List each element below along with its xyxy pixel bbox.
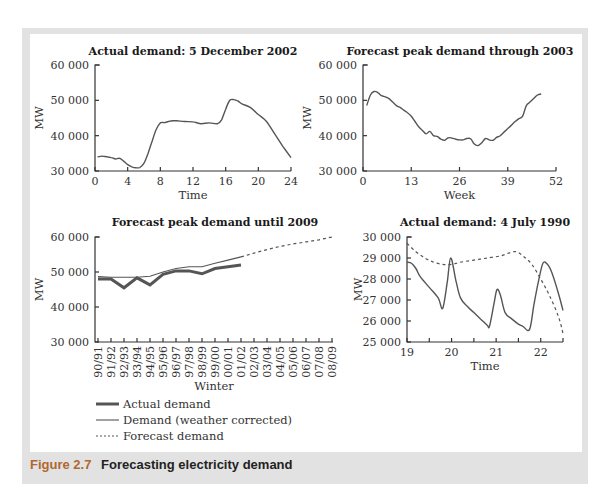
y-tick-label: 60 000 (51, 59, 90, 72)
x-tick-label: 16 (219, 175, 233, 188)
x-tick-label: 22 (534, 346, 548, 359)
y-tick-label: 40 000 (51, 301, 90, 314)
x-tick-label: 98/99 (196, 346, 209, 378)
y-tick-label: 30 000 (363, 231, 402, 244)
series-dashed (241, 237, 332, 257)
x-tick-label: 90/91 (92, 346, 105, 378)
axis-lines (95, 65, 291, 171)
axis-lines (95, 237, 333, 342)
x-tick-label: 52 (549, 175, 563, 188)
y-tick-label: 50 000 (319, 94, 358, 107)
figure-caption-text: Forecasting electricity demand (101, 457, 292, 472)
y-tick-label: 40 000 (319, 130, 358, 143)
y-tick-label: 50 000 (51, 94, 90, 107)
x-axis-label: Time (178, 188, 207, 202)
x-tick-label: 96/97 (170, 346, 183, 378)
legend-label: Actual demand (122, 397, 211, 411)
x-axis-label: Week (444, 188, 476, 202)
y-tick-label: 60 000 (51, 231, 90, 244)
x-tick-label: 0 (360, 175, 367, 188)
x-tick-label: 24 (284, 175, 298, 188)
legend: Actual demandDemand (weather corrected)F… (96, 397, 292, 443)
y-tick-label: 27 000 (363, 294, 402, 307)
series-line (367, 91, 542, 145)
x-tick-label: 19 (400, 346, 414, 359)
series-thick-solid (98, 265, 241, 288)
x-tick-label: 92/93 (118, 346, 131, 378)
y-tick-label: 40 000 (51, 130, 90, 143)
legend-label: Demand (weather corrected) (123, 413, 292, 427)
x-tick-label: 05/06 (287, 346, 300, 378)
x-tick-label: 01/02 (235, 346, 248, 378)
y-tick-label: 28 000 (363, 273, 402, 286)
x-tick-label: 12 (186, 175, 200, 188)
x-tick-label: 20 (251, 175, 265, 188)
x-tick-label: 00/01 (222, 346, 235, 378)
chart-title: Forecast peak demand through 2003 (347, 45, 574, 58)
chart4-group: Actual demand: 4 July 199025 00026 00027… (351, 216, 570, 373)
y-tick-label: 50 000 (51, 266, 90, 279)
chart3-group: Forecast peak demand until 200930 00040 … (32, 216, 339, 393)
x-tick-label: 93/94 (131, 346, 144, 378)
chart2-group: Forecast peak demand through 200330 0004… (300, 45, 573, 202)
x-tick-label: 26 (453, 175, 467, 188)
y-tick-label: 29 000 (363, 252, 402, 265)
y-axis-label: MW (300, 106, 314, 130)
x-tick-label: 97/98 (183, 346, 196, 378)
x-tick-label: 39 (501, 175, 515, 188)
y-axis-label: MW (351, 278, 365, 302)
chart1-group: Actual demand: 5 December 200230 00040 0… (32, 45, 298, 202)
chart-title: Forecast peak demand until 2009 (112, 216, 318, 229)
x-tick-label: 95/96 (157, 346, 170, 378)
y-axis-label: MW (32, 278, 46, 302)
x-tick-label: 02/03 (248, 346, 261, 378)
x-tick-label: 99/00 (209, 346, 222, 378)
x-tick-label: 8 (157, 175, 164, 188)
legend-label: Forecast demand (123, 429, 224, 443)
x-tick-label: 13 (404, 175, 418, 188)
x-tick-label: 91/92 (105, 346, 118, 378)
x-axis-label: Time (470, 359, 499, 373)
x-axis-label: Winter (194, 379, 234, 393)
series-line (98, 99, 292, 168)
x-tick-label: 94/95 (144, 346, 157, 378)
chart-title: Actual demand: 4 July 1990 (399, 216, 571, 229)
figure-caption: Figure 2.7 Forecasting electricity deman… (30, 457, 293, 472)
charts-canvas: Actual demand: 5 December 200230 00040 0… (0, 0, 608, 503)
x-tick-label: 0 (92, 175, 99, 188)
y-tick-label: 60 000 (319, 59, 358, 72)
figure-number: Figure 2.7 (30, 457, 91, 472)
chart-title: Actual demand: 5 December 2002 (88, 45, 298, 58)
y-tick-label: 30 000 (51, 165, 90, 178)
x-tick-label: 04/05 (274, 346, 287, 378)
x-tick-label: 20 (445, 346, 459, 359)
x-tick-label: 21 (489, 346, 503, 359)
y-tick-label: 26 000 (363, 315, 402, 328)
y-tick-label: 30 000 (319, 165, 358, 178)
x-tick-label: 4 (124, 175, 131, 188)
y-tick-label: 30 000 (51, 336, 90, 349)
series-line (407, 258, 563, 331)
x-tick-label: 08/09 (326, 346, 339, 378)
x-tick-label: 07/08 (313, 346, 326, 378)
axis-lines (363, 65, 556, 171)
y-tick-label: 25 000 (363, 336, 402, 349)
x-tick-label: 03/04 (261, 346, 274, 378)
y-axis-label: MW (32, 106, 46, 130)
x-tick-label: 06/07 (300, 346, 313, 378)
